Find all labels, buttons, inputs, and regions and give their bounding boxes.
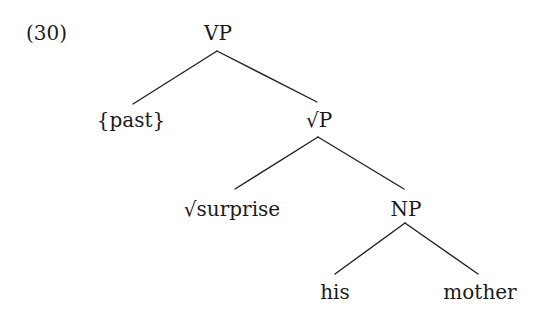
- tree-node-mother: mother: [443, 282, 516, 302]
- branch-rootp-surprise: [235, 137, 318, 189]
- tree-node-vp: VP: [204, 23, 232, 43]
- tree-node-np: NP: [391, 199, 422, 219]
- tree-node-his: his: [320, 282, 350, 302]
- branch-vp-past: [133, 51, 217, 104]
- syntax-tree-figure: (30) VP{past}√P√surpriseNPhismother: [0, 0, 556, 316]
- tree-node-past: {past}: [97, 110, 165, 130]
- branch-np-mother: [405, 223, 478, 274]
- tree-node-surprise: √surprise: [184, 199, 280, 219]
- branch-np-his: [335, 223, 405, 274]
- tree-node-rootp: √P: [306, 110, 332, 130]
- branch-vp-rootp: [217, 51, 317, 102]
- branch-rootp-np: [318, 137, 404, 189]
- tree-branches: [0, 0, 556, 316]
